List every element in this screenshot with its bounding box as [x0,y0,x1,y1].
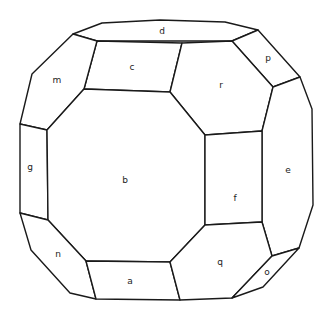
face-label-b: b [122,175,128,185]
face-label-q: q [217,257,223,267]
face-label-r: r [219,80,223,90]
face-d [73,20,258,41]
face-label-p: p [265,53,271,63]
face-label-c: c [130,62,135,72]
face-label-o: o [264,267,270,277]
face-label-n: n [55,249,61,259]
face-f [205,131,262,225]
face-g [20,124,48,220]
crystal-diagram: dcmpregbfnaqo [0,0,327,315]
face-label-m: m [53,75,62,85]
face-label-a: a [127,276,133,286]
face-label-d: d [159,26,165,36]
face-a [86,261,180,300]
face-label-e: e [285,165,291,175]
face-label-g: g [27,162,33,172]
